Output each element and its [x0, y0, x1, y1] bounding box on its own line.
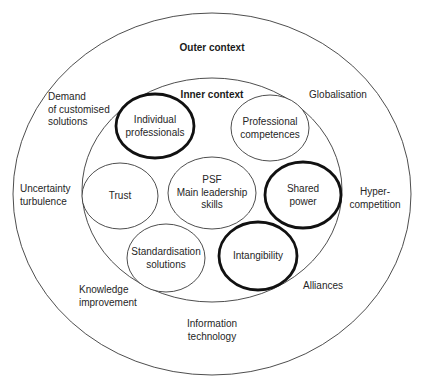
globalisation-label: Globalisation — [309, 89, 367, 102]
shared-power-label: Shared power — [287, 183, 319, 208]
demand-customised-solutions-label: Demand of customised solutions — [48, 91, 110, 129]
alliances-label: Alliances — [303, 280, 343, 293]
inner-context-title: Inner context — [181, 89, 244, 102]
professional-competences-label: Professional competences — [240, 116, 299, 141]
trust-label: Trust — [109, 190, 131, 203]
uncertainty-turbulence-label: Uncertainty turbulence — [20, 183, 71, 208]
individual-professionals-label: Individual professionals — [126, 114, 185, 139]
intangibility-label: Intangibility — [233, 250, 283, 263]
psf-main-leadership-skills-label: PSF Main leadership skills — [177, 174, 248, 212]
outer-context-title: Outer context — [179, 42, 244, 55]
knowledge-improvement-label: Knowledge improvement — [79, 284, 137, 309]
hyper-competition-label: Hyper- competition — [349, 186, 400, 211]
psf-leadership-context-diagram: Outer context Inner context Individual p… — [0, 0, 425, 388]
standardisation-solutions-label: Standardisation solutions — [131, 246, 201, 271]
information-technology-label: Information technology — [187, 318, 237, 343]
